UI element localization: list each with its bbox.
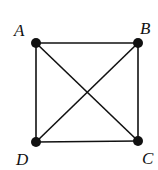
graph-diagram: A B C D — [0, 0, 158, 170]
vertex-label-d: D — [16, 151, 28, 168]
vertex-b — [133, 38, 143, 48]
vertex-c — [133, 136, 143, 146]
vertex-label-b: B — [140, 20, 150, 37]
vertex-a — [31, 38, 41, 48]
edges — [36, 43, 138, 142]
vertex-label-c: C — [142, 150, 153, 167]
edge-cd — [36, 141, 138, 142]
vertex-d — [31, 137, 41, 147]
vertex-label-a: A — [14, 22, 24, 39]
